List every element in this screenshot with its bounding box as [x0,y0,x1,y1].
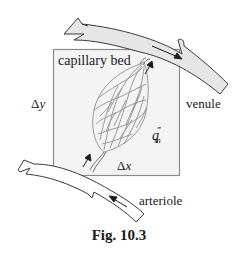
arteriole-label: arteriole [139,194,182,207]
delta-x-var: x [125,158,131,173]
capillary-bed-label: capillary bed [58,54,131,68]
venule-label: venule [186,97,221,110]
metabolic-heat-label: q‴m [152,127,161,145]
delta-x-label: Δx [117,159,131,172]
q-subscript: m [154,135,161,145]
delta-y-var: y [39,96,45,111]
delta-y-label: Δy [31,97,45,110]
diagram-canvas [0,0,238,254]
figure-caption: Fig. 10.3 [0,228,238,243]
q-superscript: ‴ [157,126,159,135]
figure-10-3: capillary bed Δy Δx q‴m venule arteriole… [0,0,238,254]
